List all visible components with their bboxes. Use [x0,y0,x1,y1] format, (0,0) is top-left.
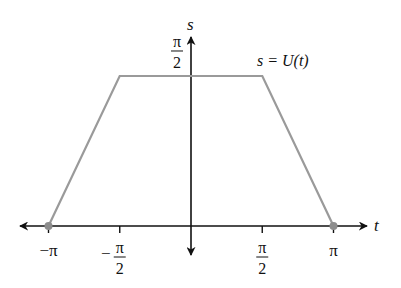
x-tick-label-sign: − [101,244,111,263]
x-tick-label: −π [39,241,58,260]
chart: t s s = U(t) −π−π2π2ππ2 [0,0,401,288]
y-tick-label-denominator: 2 [173,54,181,71]
function-annotation: s = U(t) [257,52,309,70]
x-tick-label-numerator: π [258,239,266,256]
x-tick-label-denominator: 2 [258,260,266,277]
endpoint-dot [329,222,337,230]
x-tick-label-denominator: 2 [116,260,124,277]
x-tick-label-numerator: π [116,239,124,256]
x-tick-label: π [329,241,338,260]
x-axis-label: t [374,216,380,235]
y-axis-label: s [187,15,194,34]
labels-layer: t s s = U(t) −π−π2π2ππ2 [39,15,380,277]
endpoint-dot [45,222,53,230]
axes [20,37,367,255]
y-tick-label-numerator: π [173,33,181,50]
